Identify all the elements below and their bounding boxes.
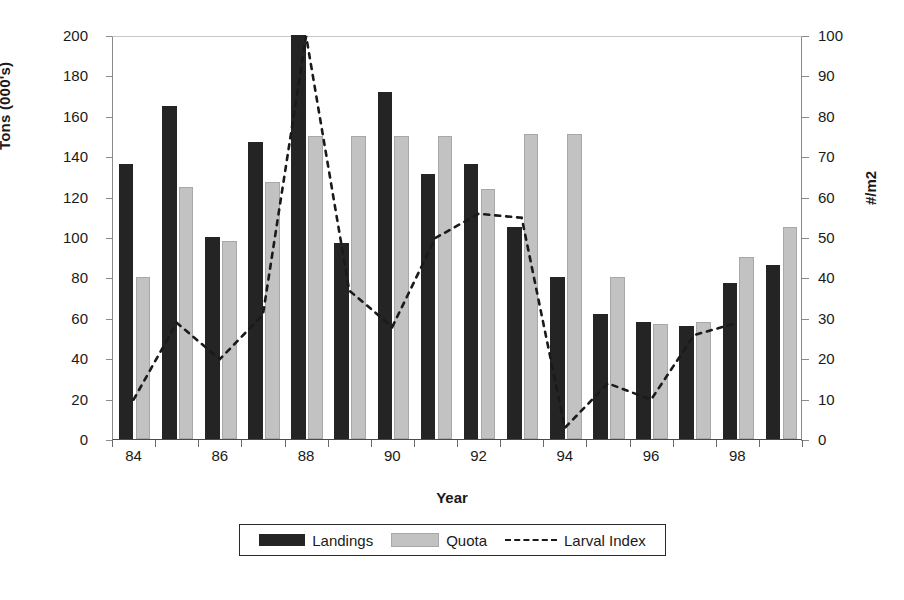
- legend-item-quota: Quota: [391, 532, 487, 549]
- legend-item-larval-index: Larval Index: [505, 532, 646, 549]
- y-axis-right-tick-mark: [801, 76, 809, 77]
- x-axis-tick-mark: [586, 440, 587, 447]
- x-axis-tick-label: 86: [190, 447, 250, 464]
- y-axis-left-tick-label: 40: [28, 350, 88, 367]
- x-axis-tick-label: 96: [621, 447, 681, 464]
- light-bar-swatch-icon: [391, 533, 439, 547]
- y-axis-left-tick-label: 120: [28, 189, 88, 206]
- x-axis-tick-label: 84: [104, 447, 164, 464]
- y-axis-right-tick-label: 50: [818, 229, 878, 246]
- y-axis-left-tick-label: 60: [28, 310, 88, 327]
- y-axis-right-tick-mark: [801, 400, 809, 401]
- legend-label-larval-index: Larval Index: [564, 532, 646, 549]
- y-axis-right-tick-mark: [801, 278, 809, 279]
- x-axis-tick-mark: [285, 440, 286, 447]
- y-axis-left-tick-label: 80: [28, 269, 88, 286]
- y-axis-right-tick-mark: [801, 157, 809, 158]
- y-axis-right-tick-label: 10: [818, 391, 878, 408]
- y-axis-right-tick-mark: [801, 359, 809, 360]
- legend-item-landings: Landings: [259, 532, 373, 549]
- y-axis-right-tick-label: 20: [818, 350, 878, 367]
- legend-label-quota: Quota: [446, 532, 487, 549]
- y-axis-right-tick-mark: [801, 238, 809, 239]
- x-axis-tick-mark: [155, 440, 156, 447]
- y-axis-right-tick-label: 30: [818, 310, 878, 327]
- x-axis-tick-label: 98: [707, 447, 767, 464]
- y-axis-right-tick-label: 70: [818, 148, 878, 165]
- x-axis-tick-mark: [457, 440, 458, 447]
- y-axis-right-tick-mark: [801, 117, 809, 118]
- y-axis-right-tick-label: 80: [818, 108, 878, 125]
- y-axis-left-tick-label: 100: [28, 229, 88, 246]
- y-axis-right-tick-mark: [801, 36, 809, 37]
- y-axis-left-tick-label: 160: [28, 108, 88, 125]
- y-axis-right-tick-label: 0: [818, 431, 878, 448]
- dashed-line-swatch-icon: [505, 534, 557, 546]
- x-axis-tick-mark: [543, 440, 544, 447]
- y-axis-left-tick-label: 20: [28, 391, 88, 408]
- y-axis-right-tick-label: 90: [818, 67, 878, 84]
- legend-label-landings: Landings: [312, 532, 373, 549]
- y-axis-right-tick-mark: [801, 198, 809, 199]
- x-axis-tick-mark: [500, 440, 501, 447]
- larval-index-line: [134, 36, 738, 428]
- x-axis-tick-label: 88: [276, 447, 336, 464]
- x-axis-tick-mark: [630, 440, 631, 447]
- y-axis-left-tick-label: 0: [28, 431, 88, 448]
- chart-figure: Tons (000's) #/m2 Year 02040608010012014…: [0, 0, 904, 600]
- chart-legend: Landings Quota Larval Index: [239, 524, 666, 556]
- y-axis-left-tick-label: 200: [28, 27, 88, 44]
- y-axis-right-tick-label: 100: [818, 27, 878, 44]
- x-axis-tick-label: 94: [535, 447, 595, 464]
- y-axis-left-tick-label: 140: [28, 148, 88, 165]
- x-axis-tick-mark: [198, 440, 199, 447]
- larval-index-series: [112, 36, 802, 440]
- y-axis-right-tick-mark: [801, 319, 809, 320]
- x-axis-tick-label: 92: [449, 447, 509, 464]
- x-axis-tick-mark: [328, 440, 329, 447]
- x-axis-tick-mark: [673, 440, 674, 447]
- x-axis-title: Year: [0, 489, 904, 506]
- y-axis-left-title: Tons (000's): [0, 0, 13, 150]
- y-axis-left-tick-label: 180: [28, 67, 88, 84]
- y-axis-right-tick-label: 60: [818, 189, 878, 206]
- x-axis-tick-mark: [759, 440, 760, 447]
- dark-bar-swatch-icon: [259, 534, 305, 546]
- x-axis-tick-mark: [371, 440, 372, 447]
- y-axis-right-tick-label: 40: [818, 269, 878, 286]
- x-axis-tick-mark: [802, 440, 803, 447]
- x-axis-tick-mark: [414, 440, 415, 447]
- x-axis-tick-mark: [112, 440, 113, 447]
- x-axis-tick-mark: [241, 440, 242, 447]
- x-axis-tick-label: 90: [362, 447, 422, 464]
- x-axis-tick-mark: [716, 440, 717, 447]
